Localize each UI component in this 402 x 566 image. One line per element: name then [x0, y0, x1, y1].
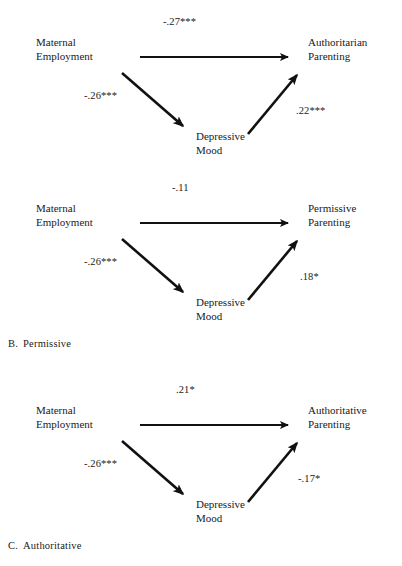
direct-path-label: -.27*** — [163, 16, 196, 28]
node-line-1: Depressive — [196, 498, 245, 512]
panel-a-arrows — [0, 0, 402, 190]
a-path-arrow — [122, 73, 183, 126]
node-line-1: Permissive — [308, 202, 356, 216]
panel-c-arrows — [0, 368, 402, 558]
node-line-2: Mood — [196, 310, 245, 324]
node-maternal-employment: Maternal Employment — [36, 404, 93, 431]
panel-b-arrows — [0, 166, 402, 356]
direct-path-label: .21* — [176, 384, 195, 396]
node-line-2: Parenting — [308, 216, 356, 230]
node-line-1: Maternal — [36, 202, 93, 216]
node-outcome-parenting: Authoritative Parenting — [308, 404, 367, 431]
panel-permissive: B.Permissive Maternal Employment — [0, 166, 402, 356]
a-path-arrow — [122, 239, 183, 292]
node-line-2: Parenting — [308, 50, 367, 64]
path-diagram-figure: Maternal Employment Authoritarian Parent… — [0, 0, 402, 566]
panel-authoritarian: Maternal Employment Authoritarian Parent… — [0, 0, 402, 190]
b-path-label: -.17* — [298, 473, 320, 485]
node-depressive-mood: Depressive Mood — [196, 498, 245, 525]
direct-path-label: -.11 — [172, 182, 189, 194]
a-path-label: -.26*** — [84, 256, 117, 268]
a-path-label: -.26*** — [84, 458, 117, 470]
node-line-1: Maternal — [36, 404, 93, 418]
node-line-2: Employment — [36, 216, 93, 230]
node-maternal-employment: Maternal Employment — [36, 202, 93, 229]
node-depressive-mood: Depressive Mood — [196, 130, 245, 157]
node-line-2: Mood — [196, 512, 245, 526]
b-path-arrow — [248, 443, 297, 502]
node-line-2: Mood — [196, 144, 245, 158]
b-path-label: .18* — [300, 271, 319, 283]
node-outcome-parenting: Permissive Parenting — [308, 202, 356, 229]
a-path-label: -.26*** — [84, 90, 117, 102]
b-path-label: .22*** — [296, 105, 325, 117]
node-line-2: Employment — [36, 418, 93, 432]
node-maternal-employment: Maternal Employment — [36, 36, 93, 63]
node-line-1: Maternal — [36, 36, 93, 50]
a-path-arrow — [122, 441, 183, 494]
b-path-arrow — [248, 241, 297, 300]
panel-authoritative: C.Authoritative Maternal Employment — [0, 368, 402, 558]
node-line-1: Depressive — [196, 130, 245, 144]
node-line-2: Parenting — [308, 418, 367, 432]
node-line-1: Authoritative — [308, 404, 367, 418]
node-outcome-parenting: Authoritarian Parenting — [308, 36, 367, 63]
b-path-arrow — [248, 75, 297, 134]
node-line-1: Depressive — [196, 296, 245, 310]
node-line-1: Authoritarian — [308, 36, 367, 50]
node-line-2: Employment — [36, 50, 93, 64]
node-depressive-mood: Depressive Mood — [196, 296, 245, 323]
